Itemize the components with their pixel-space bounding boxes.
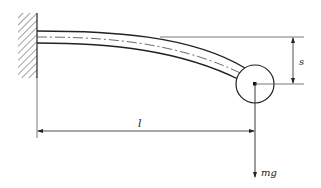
deflection-dimension-s: s	[293, 38, 304, 83]
length-dimension-l: l	[37, 78, 254, 138]
svg-text:l: l	[138, 117, 142, 130]
flexible-beam	[37, 31, 245, 80]
fixed-wall-support	[18, 13, 37, 78]
beam-centerline	[37, 37, 265, 86]
cantilever-diagram: s mg l	[0, 0, 321, 188]
svg-text:mg: mg	[261, 167, 277, 178]
svg-text:s: s	[299, 56, 304, 67]
